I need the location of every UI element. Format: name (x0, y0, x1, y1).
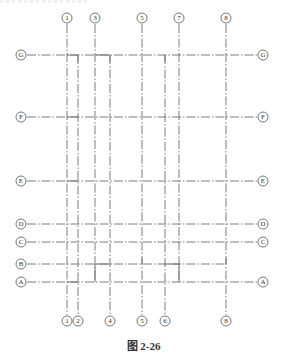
svg-text:G: G (260, 51, 265, 59)
svg-text:5: 5 (140, 317, 144, 325)
bubble-right-A: A (258, 277, 268, 287)
solid-segments (67, 55, 226, 282)
bubble-bottom-1: 1 (62, 316, 72, 326)
bubble-right-E: E (258, 176, 268, 186)
svg-text:D: D (260, 220, 265, 228)
figure-caption: 图 2-26 (0, 337, 287, 353)
bubble-right-C: C (258, 237, 268, 247)
svg-text:3: 3 (93, 14, 97, 22)
left-axis-bubbles: G F E D C B A (16, 50, 26, 287)
svg-text:D: D (18, 220, 23, 228)
bubble-left-F: F (16, 112, 26, 122)
bubble-top-1: 1 (62, 13, 72, 23)
svg-text:8: 8 (224, 317, 228, 325)
bubble-top-3: 3 (90, 13, 100, 23)
bubble-right-G: G (258, 50, 268, 60)
svg-text:1: 1 (65, 317, 69, 325)
vertical-axis-lines (67, 24, 226, 315)
svg-text:F: F (261, 113, 265, 121)
bubble-left-G: G (16, 50, 26, 60)
svg-text:E: E (19, 177, 23, 185)
bubble-right-D: D (258, 219, 268, 229)
svg-text:4: 4 (108, 317, 112, 325)
bubble-left-E: E (16, 176, 26, 186)
svg-text:6: 6 (163, 317, 167, 325)
svg-text:8: 8 (224, 14, 228, 22)
bubble-bottom-6: 6 (160, 316, 170, 326)
svg-text:7: 7 (177, 14, 181, 22)
bubble-top-8: 8 (221, 13, 231, 23)
bubble-bottom-2: 2 (73, 316, 83, 326)
right-axis-bubbles: G F E D C A (258, 50, 268, 287)
svg-text:B: B (19, 260, 24, 268)
bubble-bottom-5: 5 (137, 316, 147, 326)
bottom-axis-bubbles: 1 2 4 5 6 8 (62, 316, 231, 326)
svg-text:A: A (260, 278, 265, 286)
bubble-left-B: B (16, 259, 26, 269)
svg-text:G: G (18, 51, 23, 59)
bubble-bottom-4: 4 (105, 316, 115, 326)
bubble-left-D: D (16, 219, 26, 229)
svg-text:2: 2 (76, 317, 80, 325)
svg-text:C: C (19, 238, 24, 246)
svg-text:C: C (261, 238, 266, 246)
svg-text:5: 5 (140, 14, 144, 22)
bubble-right-F: F (258, 112, 268, 122)
bubble-left-A: A (16, 277, 26, 287)
bubble-top-7: 7 (174, 13, 184, 23)
svg-text:A: A (18, 278, 23, 286)
top-axis-bubbles: 1 3 5 7 8 (62, 13, 231, 23)
svg-text:E: E (261, 177, 265, 185)
axis-grid-drawing: 1 3 5 7 8 1 2 4 5 6 8 G F E D C B A G F … (0, 0, 287, 363)
bubble-bottom-8: 8 (221, 316, 231, 326)
svg-text:F: F (19, 113, 23, 121)
bubble-top-5: 5 (137, 13, 147, 23)
bubble-left-C: C (16, 237, 26, 247)
svg-text:1: 1 (65, 14, 69, 22)
